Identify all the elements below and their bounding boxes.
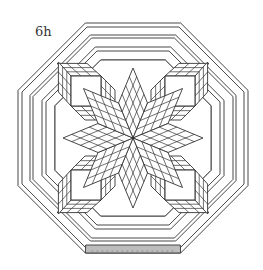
lone-star-quilt-diagram: [0, 0, 263, 270]
star-center-dot: [132, 137, 135, 140]
shaded-bottom-strip: [85, 245, 180, 253]
